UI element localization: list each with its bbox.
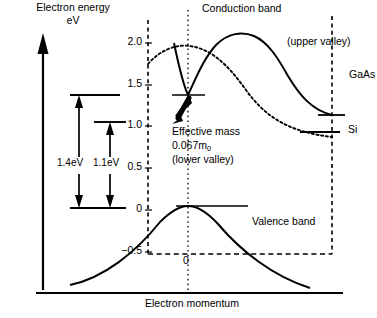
y-tick-label-0: 0 bbox=[112, 203, 142, 214]
gaas-gap-arrow-up bbox=[75, 95, 83, 157]
y-tick-label-1-5: 1.5 bbox=[112, 78, 142, 89]
y-tick-label-2-0: 2.0 bbox=[112, 36, 142, 47]
valence-band-label: Valence band bbox=[252, 216, 315, 227]
effective-mass-value-subscript: 0 bbox=[207, 144, 211, 153]
si-material-label: Si bbox=[348, 124, 357, 135]
conduction-band-label: Conduction band bbox=[202, 3, 281, 14]
lower-valley-label: (lower valley) bbox=[172, 154, 234, 165]
energy-level-diagram bbox=[70, 95, 126, 208]
effective-mass-pointer-arrow bbox=[172, 96, 192, 124]
y-tick-label-0-5: 0.5 bbox=[112, 161, 142, 172]
electron-energy-axis bbox=[38, 33, 49, 290]
electron-energy-axis-title-line2: eV bbox=[14, 15, 132, 26]
band-structure-figure: Electron energy eV 1.4eV 1.1eV 2.0 1.5 1… bbox=[0, 0, 377, 318]
electron-momentum-axis-label: Electron momentum bbox=[145, 298, 239, 309]
gaas-material-label: GaAs bbox=[349, 69, 375, 80]
effective-mass-value-number: 0.067m bbox=[172, 139, 207, 151]
electron-energy-axis-title-line1: Electron energy bbox=[14, 2, 132, 13]
si-conduction-band-curve bbox=[148, 46, 332, 137]
effective-mass-label: Effective mass bbox=[172, 126, 240, 137]
gaas-gap-arrow-down bbox=[75, 174, 83, 208]
upper-valley-label: (upper valley) bbox=[287, 36, 351, 47]
y-tick-label-1-0: 1.0 bbox=[112, 119, 142, 130]
gaas-gap-label: 1.4eV bbox=[57, 158, 83, 169]
effective-mass-value: 0.067m0 bbox=[172, 140, 211, 153]
x-tick-label-zero: 0 bbox=[183, 255, 189, 266]
y-tick-label-minus-0-5: −0.5 bbox=[106, 245, 142, 256]
